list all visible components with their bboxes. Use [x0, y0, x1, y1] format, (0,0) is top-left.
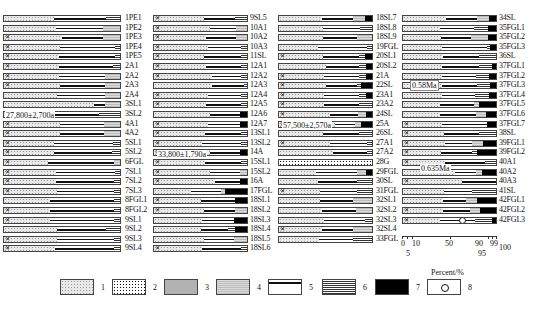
age-annotation-33800: 33,800±1,790a	[157, 150, 207, 159]
sample-row: ✕39FGL2	[0, 149, 552, 157]
segment-pattern-5	[440, 102, 474, 107]
legend-label-2: 2	[153, 283, 157, 292]
legend-label-4: 4	[257, 283, 261, 292]
sample-row: 42FGL1	[0, 197, 552, 205]
sample-label: 37FGL4	[499, 90, 525, 99]
segment-pattern-7	[488, 26, 496, 31]
percentile-bar: ✕	[402, 217, 497, 224]
sample-row: 37FGL6	[0, 111, 552, 119]
segment-pattern-6	[474, 26, 489, 31]
segment-pattern-1	[403, 189, 445, 194]
segment-pattern-7	[490, 45, 496, 50]
legend-label-1: 1	[101, 283, 105, 292]
sample-label: 37FGL3	[499, 80, 525, 89]
pattern-medium-dots-swatch	[164, 279, 198, 295]
percentile-bar	[402, 25, 497, 32]
segment-pattern-1	[403, 74, 443, 79]
segment-pattern-6	[477, 83, 491, 88]
segment-pattern-5	[440, 218, 475, 223]
segment-pattern-1	[403, 64, 443, 69]
percentile-bar: ✕	[402, 130, 497, 137]
tick-90	[488, 236, 489, 239]
sample-row: ✕40A3	[0, 178, 552, 186]
sample-label: 36SL	[499, 51, 516, 60]
sample-label: 39FGL2	[499, 147, 525, 156]
percentile-bar	[402, 92, 497, 99]
segment-pattern-4	[353, 227, 372, 232]
legend-label-8: 8	[468, 283, 472, 292]
percent-axis: 0 5 10 50 90 95 99 100	[402, 236, 497, 266]
sample-label: 32SL4	[376, 224, 396, 233]
percentile-bar: ✕	[153, 245, 248, 252]
percentile-bar	[402, 111, 497, 118]
segment-pattern-7	[487, 122, 496, 127]
sample-row: ✕37FGL7	[0, 121, 552, 129]
sample-row: 35FGL1	[0, 25, 552, 33]
sample-row: 34SL	[0, 15, 552, 23]
percentile-bar	[402, 63, 497, 70]
circle-icon	[441, 284, 449, 292]
sample-label: 40A2	[499, 167, 516, 176]
pattern-coarse-dots-swatch	[112, 279, 146, 295]
tick-5	[407, 236, 408, 239]
coarse-grain-marker-icon: ✕	[404, 141, 409, 146]
sample-row: ✕40A1	[0, 159, 552, 167]
sample-label: 42FGL1	[499, 195, 525, 204]
segment-pattern-7	[480, 208, 496, 213]
segment-pattern-1	[403, 16, 447, 21]
sample-row: 40A2	[0, 169, 552, 177]
sample-row: 35FGL3	[0, 44, 552, 52]
percentile-bar	[402, 101, 497, 108]
segment-pattern-5	[443, 208, 471, 213]
segment-pattern-1	[403, 35, 442, 40]
segment-pattern-5	[442, 122, 488, 127]
percentile-bar: ✕	[402, 178, 497, 185]
tick-label-10: 10	[412, 239, 420, 248]
percentile-bar: ✕	[402, 140, 497, 147]
segment-pattern-5	[446, 16, 479, 21]
pattern-single-line-swatch	[268, 279, 302, 295]
sample-row: 37FGL5	[0, 101, 552, 109]
segment-pattern-1	[403, 131, 445, 136]
segment-pattern-7	[492, 218, 496, 223]
segment-pattern-5	[202, 246, 242, 251]
segment-pattern-6	[472, 189, 496, 194]
legend-label-5: 5	[309, 283, 313, 292]
coarse-grain-marker-icon: ✕	[404, 208, 409, 213]
segment-pattern-5	[442, 83, 478, 88]
segment-pattern-5	[444, 189, 473, 194]
segment-pattern-1	[403, 26, 441, 31]
sample-row: 37FGL2	[0, 73, 552, 81]
segment-pattern-5	[442, 45, 488, 50]
segment-pattern-6	[353, 237, 372, 242]
age-annotation-058ma: 0.58Ma	[410, 80, 439, 91]
segment-pattern-7	[489, 74, 496, 79]
segment-pattern-5	[445, 141, 473, 146]
segment-pattern-5	[442, 64, 480, 69]
age-annotation-27800: 27,800±2,700a	[5, 111, 55, 120]
segment-pattern-7	[477, 198, 496, 203]
sample-row: ✕42FGL3	[0, 217, 552, 225]
circle-marker-swatch	[427, 279, 461, 295]
segment-pattern-7	[489, 93, 496, 98]
coarse-grain-marker-icon: ✕	[404, 150, 409, 155]
percentile-bar	[402, 188, 497, 195]
coarse-grain-marker-icon: ✕	[280, 227, 285, 232]
percentile-bar	[402, 34, 497, 41]
segment-pattern-7	[489, 16, 496, 21]
age-annotation-57500: 57,500±2,570a	[282, 121, 332, 130]
sample-row: ✕39FGL1	[0, 140, 552, 148]
segment-pattern-6	[475, 218, 494, 223]
sample-label: 37FGL7	[499, 119, 525, 128]
sample-label: 35FGL2	[499, 32, 525, 41]
segment-pattern-1	[403, 45, 443, 50]
sample-row: 37FGL1	[0, 63, 552, 71]
segment-pattern-6	[475, 93, 491, 98]
tick-label-0: 0	[401, 239, 405, 248]
percentile-bar: ✕	[278, 226, 373, 233]
segment-pattern-1	[403, 208, 444, 213]
segment-pattern-5	[443, 54, 480, 59]
segment-pattern-6	[241, 246, 247, 251]
sample-label: 35FGL1	[499, 23, 525, 32]
segment-pattern-1	[403, 102, 441, 107]
